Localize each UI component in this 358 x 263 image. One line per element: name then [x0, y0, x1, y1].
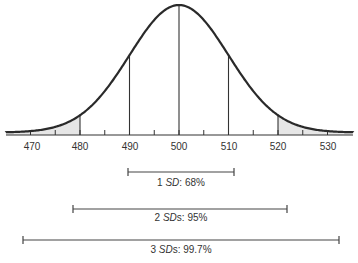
range-1sd: 1 SD: 68%	[128, 168, 234, 188]
range-3sd-label: 3 SDs: 99.7%	[150, 244, 211, 255]
tick-label-520: 520	[270, 141, 287, 152]
tick-label-530: 530	[320, 141, 337, 152]
tick-label-480: 480	[72, 141, 89, 152]
range-3sd: 3 SDs: 99.7%	[23, 236, 339, 255]
tick-label-490: 490	[122, 141, 139, 152]
sd-vertical-lines	[80, 5, 278, 135]
range-1sd-label: 1 SD: 68%	[157, 177, 205, 188]
x-axis-tick-labels: 470 480 490 500 510 520 530	[24, 141, 337, 152]
range-2sd: 2 SDs: 95%	[73, 205, 287, 223]
normal-distribution-chart: 470 480 490 500 510 520 530 1 SD: 68% 2 …	[0, 0, 358, 263]
tick-label-510: 510	[221, 141, 238, 152]
tick-label-470: 470	[24, 141, 41, 152]
range-2sd-label: 2 SDs: 95%	[155, 212, 208, 223]
tick-label-500: 500	[171, 141, 188, 152]
